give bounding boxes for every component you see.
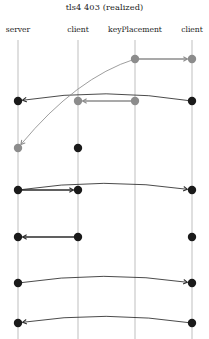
event-node-e13 xyxy=(74,233,82,241)
message-m1 xyxy=(135,57,187,61)
event-node-e18 xyxy=(188,319,196,327)
message-m9 xyxy=(23,316,192,324)
message-line xyxy=(18,276,187,283)
event-node-e2 xyxy=(188,55,196,63)
event-node-e8 xyxy=(74,144,82,152)
messages-group xyxy=(18,57,192,324)
diagram-canvas xyxy=(0,0,209,339)
message-line xyxy=(23,94,192,101)
event-node-e10 xyxy=(74,186,82,194)
sequence-diagram: tls4 403 (realized) serverclientkeyPlace… xyxy=(0,0,209,339)
message-line xyxy=(18,183,187,190)
message-m7 xyxy=(23,235,78,239)
event-node-e16 xyxy=(188,279,196,287)
message-m8 xyxy=(18,276,187,284)
event-node-e15 xyxy=(14,279,22,287)
event-node-e12 xyxy=(14,233,22,241)
event-node-e7 xyxy=(14,144,22,152)
event-node-e4 xyxy=(74,97,82,105)
event-node-e11 xyxy=(188,186,196,194)
event-node-e6 xyxy=(188,97,196,105)
events-group xyxy=(14,55,196,327)
event-node-e5 xyxy=(131,97,139,105)
event-node-e9 xyxy=(14,186,22,194)
message-line xyxy=(23,316,192,323)
event-node-e14 xyxy=(188,233,196,241)
event-node-e3 xyxy=(14,97,22,105)
event-node-e1 xyxy=(131,55,139,63)
event-node-e17 xyxy=(14,319,22,327)
message-m3 xyxy=(83,99,135,103)
